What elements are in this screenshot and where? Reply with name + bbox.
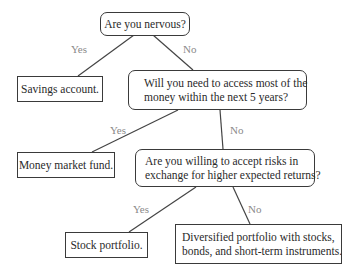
answer-node-savings-account: Savings account.: [17, 76, 103, 102]
answer-text-line-2: bonds, and short-term instruments.: [182, 244, 342, 258]
edge-label-q3-no: No: [248, 203, 261, 215]
question-node-access-money: Will you need to access most of the mone…: [128, 70, 307, 110]
question-text-line-2: money within the next 5 years?: [144, 90, 307, 104]
answer-text: Stock portfolio.: [70, 238, 142, 252]
question-text-line-1: Will you need to access most of the: [144, 76, 307, 90]
question-text: Will you need to access most of the mone…: [144, 76, 307, 104]
edge-label-q2-no: No: [230, 124, 243, 136]
question-node-nervous: Are you nervous?: [100, 12, 190, 36]
edge-q2-a2: [92, 110, 178, 152]
edge-label-q1-no: No: [183, 43, 196, 55]
question-text: Are you nervous?: [104, 17, 186, 31]
answer-text: Savings account.: [21, 82, 99, 96]
answer-text: Diversified portfolio with stocks, bonds…: [182, 230, 342, 258]
answer-text: Money market fund.: [19, 158, 113, 172]
answer-text-line-1: Diversified portfolio with stocks,: [182, 230, 342, 244]
edge-q1-a1: [78, 35, 134, 76]
answer-node-money-market-fund: Money market fund.: [17, 152, 115, 178]
edge-label-q3-yes: Yes: [133, 203, 149, 215]
question-text: Are you willing to accept risks in excha…: [145, 154, 321, 182]
answer-node-diversified-portfolio: Diversified portfolio with stocks, bonds…: [175, 224, 342, 264]
question-text-line-2: exchange for higher expected returns?: [145, 168, 321, 182]
edge-q2-q3: [220, 110, 223, 149]
question-node-accept-risks: Are you willing to accept risks in excha…: [135, 149, 315, 187]
edge-label-q2-yes: Yes: [110, 124, 126, 136]
edge-label-q1-yes: Yes: [71, 43, 87, 55]
question-text-line-1: Are you willing to accept risks in: [145, 154, 321, 168]
answer-node-stock-portfolio: Stock portfolio.: [65, 232, 148, 258]
